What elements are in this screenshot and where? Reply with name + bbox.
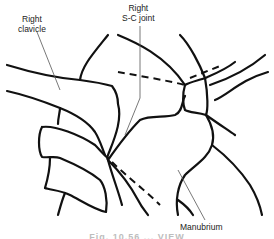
figure-caption: Fig. 10.56 ... VIEW	[0, 232, 274, 239]
label-manubrium: Manubrium	[180, 222, 223, 232]
first-rib-outline	[39, 127, 108, 215]
label-right-clavicle-line2: clavicle	[18, 24, 46, 34]
label-right-sc-joint-line1: Right	[122, 3, 155, 13]
dashed-joint-line-upper	[118, 72, 185, 85]
contralateral-clavicle-outline	[180, 35, 268, 135]
sternoclavicular-diagram	[0, 0, 274, 239]
label-right-clavicle: Right clavicle	[18, 14, 46, 34]
label-right-sc-joint: Right S-C joint	[122, 3, 155, 23]
clavicle-leader-line	[37, 32, 60, 90]
label-right-sc-joint-line2: S-C joint	[122, 13, 155, 23]
label-right-clavicle-line1: Right	[18, 14, 46, 24]
sc-joint-outline	[107, 96, 185, 215]
right-clavicle-outline	[7, 35, 118, 155]
